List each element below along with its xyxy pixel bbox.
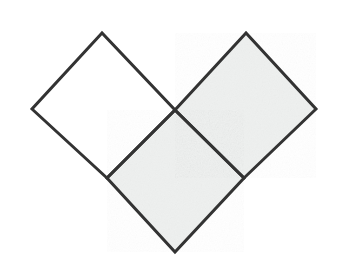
diamonds-figure [0, 0, 343, 263]
figure-canvas [0, 0, 343, 263]
